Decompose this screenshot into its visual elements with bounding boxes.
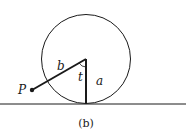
angle-t-label: t [78,70,83,84]
point-p-label: P [17,83,27,97]
rolling-circle-diagram: P b t a (b) [0,0,186,136]
point-p-dot [30,88,34,92]
figure-caption: (b) [78,117,94,130]
segment-b-label: b [57,59,65,73]
angle-arc [79,63,86,67]
radius-a-label: a [96,74,103,88]
